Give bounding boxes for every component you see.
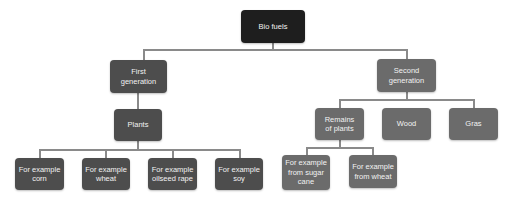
connector [372, 147, 374, 155]
node-first-generation: First generation [110, 60, 167, 93]
node-label: For example wheat [82, 165, 130, 184]
node-second-generation: Second generation [377, 59, 436, 92]
connector [39, 149, 41, 158]
connector [39, 149, 240, 151]
node-label: Plants [128, 120, 149, 129]
node-label: Wood [397, 119, 416, 128]
node-label: Remains of plants [315, 115, 364, 134]
connector [172, 149, 174, 158]
connector [105, 149, 107, 158]
connector [339, 99, 475, 101]
connector [306, 147, 308, 155]
node-remains-of-plants: Remains of plants [315, 108, 364, 140]
node-bio-fuels: Bio fuels [241, 10, 305, 43]
node-label: For example from wheat [349, 162, 397, 181]
node-label: Bio fuels [259, 22, 288, 31]
connector [306, 147, 374, 149]
node-label: Second generation [377, 66, 436, 85]
node-label: For example corn [15, 165, 64, 184]
node-label: For example oilseed rape [148, 165, 197, 184]
connector [473, 99, 475, 108]
node-from-wheat: For example from wheat [349, 155, 397, 188]
node-oilseed-rape: For example oilseed rape [148, 158, 197, 190]
node-gras: Gras [449, 108, 498, 140]
node-plants: Plants [114, 109, 162, 141]
node-label: Gras [465, 119, 481, 128]
connector [143, 49, 145, 60]
node-wheat: For example wheat [82, 158, 130, 190]
node-label: For example from sugar cane [282, 158, 330, 186]
node-label: For example soy [215, 165, 263, 184]
node-corn: For example corn [15, 158, 64, 190]
node-sugar-cane: For example from sugar cane [282, 155, 330, 190]
node-wood: Wood [382, 108, 431, 140]
connector [339, 99, 341, 108]
connector [143, 49, 408, 51]
node-soy: For example soy [215, 158, 263, 190]
connector [137, 92, 139, 109]
connector [239, 149, 241, 158]
node-label: First generation [121, 67, 156, 86]
